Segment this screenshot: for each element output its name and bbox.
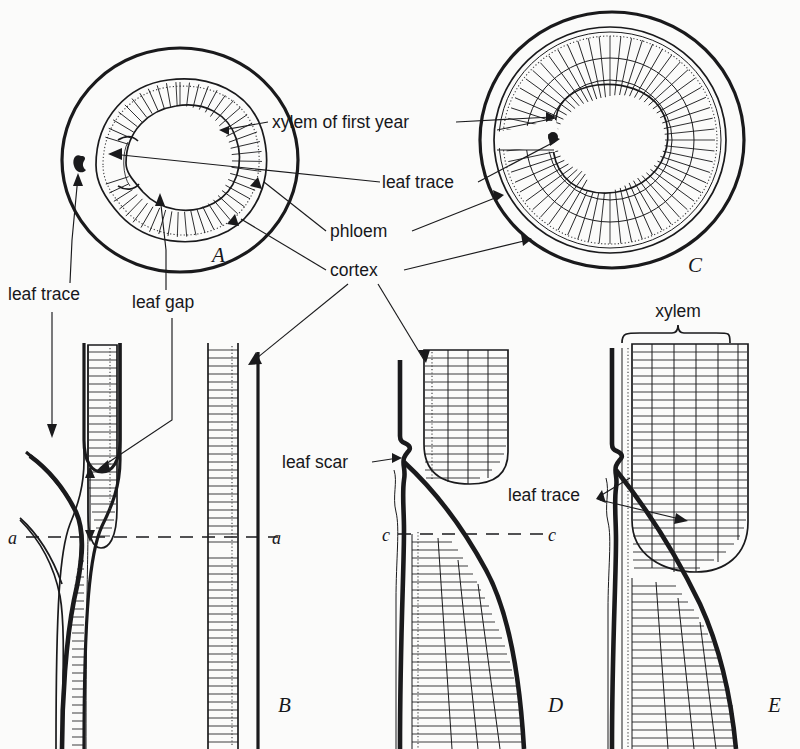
arrow-leafgap-up-a: [155, 193, 165, 206]
arrow-xylem-a: [219, 126, 229, 135]
panel-e-upper-hhatch: [633, 352, 747, 568]
leader-leafgap-up-a: [160, 196, 166, 290]
panel-letter-c: C: [688, 253, 703, 277]
panel-d-upper-vlines: [448, 350, 488, 484]
panel-letter-a: A: [210, 243, 225, 267]
leader-cortex-d: [378, 284, 424, 360]
leader-cortex-c: [404, 240, 528, 270]
panel-letter-e: E: [767, 693, 781, 717]
panel-d-upper-outline: [424, 350, 508, 484]
label-phloem: phloem: [330, 221, 387, 241]
arrow-leaftrace-up-a: [73, 173, 83, 186]
panel-c-cross-section: C: [480, 12, 744, 277]
panel-letter-d: D: [547, 693, 563, 717]
label-xylem-of-first-year: xylem of first year: [272, 112, 409, 132]
label-leaf-gap: leaf gap: [132, 292, 194, 312]
leader-leaftrace-up-a: [70, 176, 78, 283]
panel-d-leaf-trace-curve: [404, 462, 524, 749]
panel-d-lower-vlines: [438, 538, 500, 749]
label-xylem: xylem: [655, 301, 701, 321]
panel-d-cortex-wavy: [394, 470, 398, 749]
leader-cortex-b: [252, 284, 348, 362]
panel-b-gap-arrow-down: [85, 530, 95, 542]
panel-a-cross-section: A: [62, 48, 298, 272]
leader-cortex-a: [241, 219, 326, 270]
panel-b-middle-column: [88, 345, 117, 548]
panel-d-epidermis-left: [400, 360, 410, 749]
panel-e-epidermis-left: [612, 348, 622, 749]
leader-leafgap-down-b: [100, 318, 172, 468]
arrow-leaftrace-e-lower-head: [674, 513, 688, 524]
upper-label-group: xylem of first year leaf trace phloem co…: [108, 112, 560, 365]
xylem-bracket: [622, 325, 730, 343]
label-leaf-trace-right: leaf trace: [508, 485, 580, 505]
panel-e-cortex-wavy: [606, 478, 610, 749]
panel-d-upper-wood: [424, 350, 508, 484]
label-leaf-trace-left: leaf trace: [8, 284, 80, 304]
panel-e-upper-outline: [632, 344, 748, 572]
section-label-c-right: c: [548, 525, 556, 545]
panel-d-upper-hhatch: [425, 358, 507, 478]
arrow-leaftrace-a: [108, 148, 122, 160]
panel-b-right-hatch: [208, 350, 238, 742]
panel-e-upper-wood: [632, 344, 748, 572]
arrow-leaftrace-down-b: [47, 424, 57, 438]
panel-a-leaf-gap-notch-lower: [118, 184, 139, 189]
arrow-leaftrace-e-fork: [596, 490, 606, 503]
section-label-a-left: a: [8, 528, 17, 548]
section-label-c-left: c: [382, 525, 390, 545]
leader-phloem-c: [412, 196, 500, 231]
panel-letter-b: B: [278, 693, 291, 717]
panel-e-lower-vlines: [656, 582, 716, 749]
arrow-leaf-scar: [392, 453, 402, 463]
label-cortex: cortex: [330, 260, 378, 280]
panel-b-wood-right-edge: [84, 343, 120, 749]
panel-b-longitudinal: a a B: [8, 343, 291, 749]
panel-a-epidermis: [62, 48, 298, 272]
label-leaf-trace-top: leaf trace: [382, 172, 454, 192]
panel-d-lower-hhatch: [412, 542, 525, 742]
panel-b-middle-hatch: [89, 352, 117, 536]
panel-a-phloem-outer: [96, 79, 267, 242]
label-leaf-scar: leaf scar: [282, 452, 348, 472]
panel-b-middle-outline: [88, 345, 117, 548]
panel-a-leaf-trace-bundle: [73, 155, 86, 172]
panel-d-longitudinal: leaf scar: [282, 350, 563, 749]
section-label-a-right: a: [272, 528, 281, 548]
panel-a-leaf-gap-notch: [118, 137, 138, 141]
stem-anatomy-figure: A: [0, 0, 800, 749]
left-label-group: leaf trace leaf gap: [8, 173, 194, 472]
panel-b-right-column: [208, 343, 238, 749]
arrow-cortex-b: [248, 352, 262, 365]
panel-b-trace-loop: [84, 343, 120, 472]
